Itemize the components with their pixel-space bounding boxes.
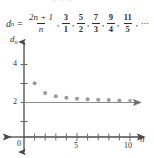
data-point — [43, 91, 47, 95]
data-point — [64, 96, 68, 100]
general-term-numerator: 2n + 1 — [27, 13, 55, 23]
data-point — [117, 98, 121, 102]
term-5-denominator: 5 — [124, 23, 132, 34]
x-axis-title: n — [140, 134, 145, 144]
term-fraction-1: 3 1 — [62, 13, 70, 33]
data-point — [128, 99, 132, 103]
term-1-denominator: 1 — [62, 23, 70, 34]
scatter-plot: d_ndn n 2 4 5 10 0 — [0, 36, 154, 158]
x-tick-label-5: 5 — [74, 141, 78, 150]
formula-separator-5: , — [136, 18, 138, 28]
formula-separator-2: , — [87, 18, 89, 28]
y-axis — [21, 42, 28, 152]
term-5-numerator: 11 — [122, 13, 134, 23]
formula-separator-1: , — [72, 18, 74, 28]
term-4-numerator: 9 — [107, 13, 115, 23]
term-2-denominator: 2 — [77, 23, 85, 34]
data-point-series — [33, 81, 132, 102]
y-tick-label-2: 2 — [13, 97, 17, 106]
formula-separator-3: , — [102, 18, 104, 28]
sequence-convergence-figure: n → ∞ dn = 2n + 1 n , 3 1 , 5 2 , 7 3 , … — [0, 0, 154, 158]
term-fraction-2: 5 2 — [77, 13, 85, 33]
clipped-limit-text: n → ∞ — [52, 0, 112, 5]
y-axis-title: d_ndn — [10, 34, 18, 45]
formula-separator-4: , — [117, 18, 119, 28]
term-fraction-4: 9 4 — [107, 13, 115, 33]
term-4-denominator: 4 — [107, 23, 115, 34]
data-point — [86, 97, 90, 101]
data-point — [75, 97, 79, 101]
term-2-numerator: 5 — [77, 13, 85, 23]
data-point — [54, 94, 58, 98]
general-term-denominator: n — [37, 23, 46, 34]
y-tick-label-4: 4 — [13, 59, 17, 68]
term-fraction-3: 7 3 — [92, 13, 100, 33]
term-3-numerator: 7 — [92, 13, 100, 23]
formula-ellipsis: ⋯ — [141, 19, 150, 28]
x-tick-label-10: 10 — [124, 141, 132, 150]
data-point — [33, 81, 37, 85]
x-axis — [10, 133, 144, 141]
general-term-fraction: 2n + 1 n — [27, 13, 55, 34]
data-point — [107, 98, 111, 102]
sequence-formula: dn = 2n + 1 n , 3 1 , 5 2 , 7 3 , 9 4 , … — [6, 11, 150, 35]
formula-separator-0: , — [57, 18, 59, 28]
data-point — [96, 98, 100, 102]
origin-label: 0 — [17, 139, 21, 148]
plot-svg — [0, 36, 154, 158]
term-fraction-5: 11 5 — [122, 13, 134, 33]
term-3-denominator: 3 — [92, 23, 100, 34]
formula-equals-sign: = — [17, 18, 23, 29]
term-1-numerator: 3 — [62, 13, 70, 23]
formula-lhs-subscript: n — [11, 20, 14, 27]
